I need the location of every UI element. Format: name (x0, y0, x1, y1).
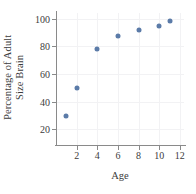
x-tick-label: 12 (175, 150, 185, 161)
x-axis-label: Age (56, 170, 184, 181)
x-tick-label: 8 (136, 150, 141, 161)
gridline-horizontal (56, 46, 184, 47)
gridline-vertical (97, 13, 98, 146)
data-point (115, 33, 120, 38)
y-axis-label-line-2: Size Brain (15, 55, 27, 100)
gridline-horizontal (56, 74, 184, 75)
y-tick-mark (52, 46, 56, 47)
y-tick-label: 100 (35, 13, 50, 24)
gridline-vertical (77, 13, 78, 146)
y-tick-mark (52, 102, 56, 103)
x-tick-label: 10 (154, 150, 164, 161)
data-point (167, 19, 172, 24)
scatter-chart-figure: Size Brain Percentage of Adult 204060801… (0, 0, 196, 194)
data-point (136, 28, 141, 33)
plot-background (56, 13, 184, 146)
gridline-vertical (139, 13, 140, 146)
y-axis-label: Size Brain Percentage of Adult (0, 0, 30, 155)
x-tick-label: 4 (95, 150, 100, 161)
y-tick-label: 20 (40, 124, 50, 135)
x-tick-label: 2 (74, 150, 79, 161)
data-point (64, 113, 69, 118)
gridline-horizontal (56, 19, 184, 20)
plot-area: 20406080100 24681012 (56, 13, 184, 146)
data-point (74, 85, 79, 90)
x-axis-spine (55, 145, 186, 146)
y-tick-mark (52, 129, 56, 130)
y-tick-mark (52, 74, 56, 75)
y-axis-label-line-1: Percentage of Adult (3, 35, 15, 120)
y-tick-label: 60 (40, 68, 50, 79)
gridline-horizontal (56, 102, 184, 103)
data-point (95, 47, 100, 52)
y-axis-spine (56, 11, 57, 146)
data-point (157, 24, 162, 29)
y-tick-label: 80 (40, 41, 50, 52)
gridline-vertical (180, 13, 181, 146)
x-tick-label: 6 (115, 150, 120, 161)
y-tick-label: 40 (40, 96, 50, 107)
gridline-vertical (159, 13, 160, 146)
gridline-horizontal (56, 129, 184, 130)
y-tick-mark (52, 19, 56, 20)
